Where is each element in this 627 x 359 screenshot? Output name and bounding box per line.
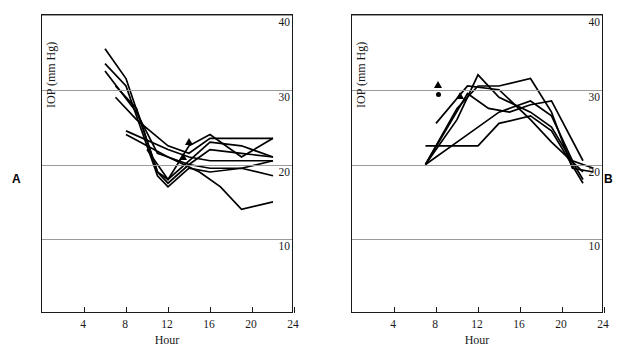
x-tick-16-a [210, 307, 211, 313]
panel-b: 10203040 IOP (mm Hg) Hour 4812162024 [310, 0, 623, 359]
x-tick-20-a [252, 307, 253, 313]
x-tick-label-12-a: 12 [154, 318, 180, 330]
x-tick-12-a [168, 307, 169, 313]
x-tick-label-16-a: 16 [196, 318, 222, 330]
gridline-y-10 [352, 239, 602, 240]
x-tick-12-b [478, 307, 479, 313]
trace-subject-2-a [105, 64, 273, 187]
y-tick-label-10-a: 10 [279, 241, 291, 252]
y-tick-label-20-a: 20 [279, 167, 291, 178]
gridline-y-20 [352, 165, 602, 166]
panel-label-a: A [12, 172, 21, 186]
x-tick-label-12-b: 12 [464, 318, 490, 330]
gridline-y-40 [352, 15, 602, 16]
x-tick-label-20-a: 20 [238, 318, 264, 330]
triangle-marker-icon-b-2 [456, 92, 464, 99]
y-tick-label-30-a: 30 [279, 92, 291, 103]
x-tick-label-24-b: 24 [590, 318, 616, 330]
gridline-y-40 [42, 15, 292, 16]
triangle-marker-icon-b-0 [434, 81, 442, 88]
x-tick-label-20-b: 20 [548, 318, 574, 330]
x-tick-label-24-a: 24 [280, 318, 306, 330]
x-tick-4-b [394, 307, 395, 313]
y-tick-label-40-b: 40 [589, 17, 601, 28]
y-tick-label-10-b: 10 [589, 241, 601, 252]
x-tick-label-16-b: 16 [506, 318, 532, 330]
x-tick-label-8-a: 8 [112, 318, 138, 330]
y-tick-label-20-b: 20 [589, 167, 601, 178]
gridline-y-30 [42, 90, 292, 91]
y-axis-title-b: IOP (mm Hg) [354, 42, 369, 108]
triangle-marker-icon-a-1 [179, 153, 187, 160]
panel-label-b: B [604, 172, 613, 186]
y-axis-title-a: IOP (mm Hg) [44, 42, 59, 108]
x-tick-8-b [436, 307, 437, 313]
gridline-y-10 [42, 239, 292, 240]
x-axis-title-b: Hour [351, 333, 603, 348]
x-tick-label-4-b: 4 [380, 318, 406, 330]
plot-area-a: 10203040 [41, 14, 293, 313]
x-tick-8-a [126, 307, 127, 313]
gridline-y-20 [42, 165, 292, 166]
panel-a: 10203040 IOP (mm Hg) Hour 4812162024 [0, 0, 313, 359]
x-tick-20-b [562, 307, 563, 313]
y-tick-label-40-a: 40 [279, 17, 291, 28]
plot-area-b: 10203040 [351, 14, 603, 313]
x-axis-title-a: Hour [41, 333, 293, 348]
gridline-y-30 [352, 90, 602, 91]
triangle-marker-icon-a-0 [185, 138, 193, 145]
x-tick-label-8-b: 8 [422, 318, 448, 330]
x-tick-16-b [520, 307, 521, 313]
y-tick-label-30-b: 30 [589, 92, 601, 103]
x-tick-24-b [604, 307, 605, 313]
trace-subject-3-b [426, 93, 584, 164]
x-tick-4-a [84, 307, 85, 313]
x-tick-label-4-a: 4 [70, 318, 96, 330]
trace-subject-1-a [105, 49, 273, 184]
x-tick-24-a [294, 307, 295, 313]
figure-iop-panels: 10203040 IOP (mm Hg) Hour 4812162024 A 1… [0, 0, 627, 359]
